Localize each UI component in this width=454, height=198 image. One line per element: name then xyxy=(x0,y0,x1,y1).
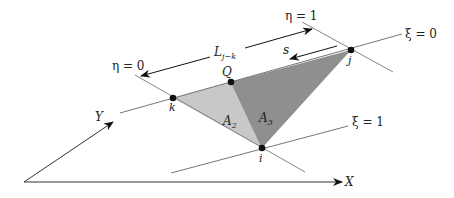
triangle-area-coordinates-diagram: η = 0 η = 1 ξ = 0 ξ = 1 Lj−k s Q j k i A… xyxy=(0,0,454,198)
y-axis xyxy=(24,122,113,182)
label-length-main: L xyxy=(213,45,222,59)
label-a3-main: A xyxy=(258,111,268,125)
label-x-axis: X xyxy=(344,175,354,189)
label-s: s xyxy=(283,43,289,57)
node-i xyxy=(259,145,266,152)
label-k: k xyxy=(169,101,176,114)
label-eta-1: η = 1 xyxy=(285,9,318,23)
label-i: i xyxy=(259,152,263,165)
label-j: j xyxy=(345,54,352,67)
label-q: Q xyxy=(222,65,232,79)
label-xi-1: ξ = 1 xyxy=(352,115,384,129)
label-length: Lj−k xyxy=(213,45,236,61)
label-a2-sub: 2 xyxy=(231,121,237,130)
label-length-sub: j−k xyxy=(220,52,236,61)
length-arrow-right xyxy=(245,29,312,48)
label-a2-main: A xyxy=(222,114,232,128)
label-eta-0: η = 0 xyxy=(112,59,145,73)
label-a3-sub: 3 xyxy=(268,118,273,127)
label-xi-0: ξ = 0 xyxy=(405,27,437,41)
diagram-canvas: η = 0 η = 1 ξ = 0 ξ = 1 Lj−k s Q j k i A… xyxy=(0,0,454,198)
label-y-axis: Y xyxy=(95,110,104,124)
node-j xyxy=(348,47,355,54)
length-arrow-left xyxy=(141,57,210,76)
node-q xyxy=(228,79,235,86)
